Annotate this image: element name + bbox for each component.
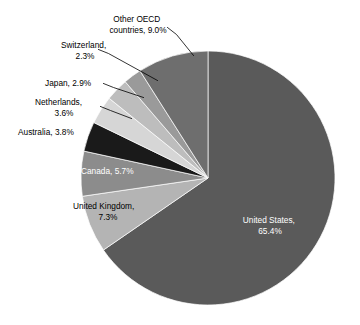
- leader-line-switzerland: [99, 50, 158, 81]
- pie-chart: Other OECD countries, 9.0% Switzerland, …: [0, 0, 360, 325]
- leader-line-other-oecd: [168, 28, 194, 56]
- pie-label-netherlands: Netherlands, 3.6%: [35, 97, 84, 118]
- pie-label-other-oecd: Other OECD countries, 9.0%: [109, 14, 167, 35]
- pie-chart-container: Other OECD countries, 9.0% Switzerland, …: [0, 0, 360, 325]
- pie-label-canada: Canada, 5.7%: [81, 166, 134, 176]
- pie-label-japan: Japan, 2.9%: [45, 78, 92, 88]
- pie-label-australia: Australia, 3.8%: [18, 127, 74, 137]
